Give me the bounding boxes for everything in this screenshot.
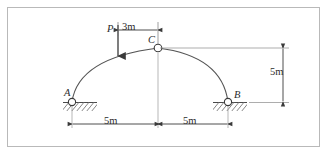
figure-canvas: 3m 5m 5m 5m P A B C: [0, 0, 328, 155]
support-A: [61, 101, 100, 112]
point-label-A: A: [64, 88, 70, 99]
point-label-C: C: [148, 35, 155, 46]
dimension-label-5m-vertical: 5m: [270, 67, 283, 78]
hinge-B: [224, 98, 231, 105]
load-label-P: P: [107, 24, 113, 35]
arch-diagram-svg: [0, 0, 328, 155]
dimension-label-5m-right: 5m: [183, 116, 196, 127]
dimension-label-3m: 3m: [122, 22, 135, 33]
hinge-A: [68, 98, 75, 105]
dimension-label-5m-left: 5m: [104, 116, 117, 127]
point-label-B: B: [234, 90, 240, 101]
arch-curve: [72, 48, 228, 102]
